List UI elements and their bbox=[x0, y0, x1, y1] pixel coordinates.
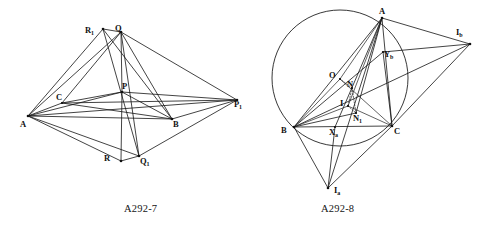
caption-figure-left: A292-7 bbox=[124, 203, 157, 214]
point-label-P1: P1 bbox=[234, 100, 242, 109]
point-label-B-right: B bbox=[281, 126, 287, 135]
point-label-B: B bbox=[173, 120, 179, 129]
point-label-R1: R1 bbox=[85, 26, 94, 35]
point-label-R: R bbox=[104, 154, 110, 163]
point-label-I: I bbox=[340, 99, 343, 108]
figure-right-drawing bbox=[0, 0, 492, 227]
point-label-A-right: A bbox=[379, 7, 385, 16]
point-label-N: N bbox=[347, 80, 353, 89]
point-label-Q: Q bbox=[115, 24, 122, 33]
figure-sheet: A C R1 Q P B P1 R Q1 A B C O N I N1 Xa Y… bbox=[0, 0, 492, 227]
point-label-C-right: C bbox=[394, 127, 400, 136]
caption-figure-right: A292-8 bbox=[321, 203, 354, 214]
point-label-Ia: Ia bbox=[334, 186, 341, 195]
point-label-A: A bbox=[20, 120, 26, 129]
point-label-Xa: Xa bbox=[329, 128, 338, 137]
point-label-N1: N1 bbox=[353, 114, 362, 123]
figure-right-vertices bbox=[293, 17, 472, 190]
point-label-P: P bbox=[122, 82, 127, 91]
point-label-Yb: Yb bbox=[384, 50, 394, 59]
point-label-C: C bbox=[56, 93, 62, 102]
figure-right-segments bbox=[294, 18, 470, 188]
point-label-Ib: Ib bbox=[456, 28, 463, 37]
point-label-O: O bbox=[329, 71, 336, 80]
point-label-Q1: Q1 bbox=[140, 157, 150, 166]
